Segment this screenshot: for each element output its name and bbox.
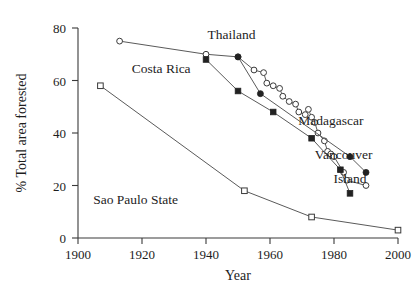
series-label-costa-rica: Costa Rica	[132, 61, 191, 76]
data-point	[395, 227, 401, 233]
data-point	[257, 91, 263, 97]
forest-cover-chart: 80 60 40 20 0 1900 1920 1940 1960 1980 2…	[0, 0, 412, 288]
data-point	[117, 38, 123, 44]
y-tick-label-60: 60	[53, 74, 66, 89]
series-annotations: ThailandCosta RicaMadagascarVancouverIsl…	[93, 27, 373, 207]
x-axis-ticks	[78, 238, 398, 244]
data-point	[251, 67, 257, 73]
data-point	[286, 99, 292, 105]
data-point	[306, 106, 312, 112]
data-point	[309, 214, 315, 220]
data-point	[280, 93, 286, 99]
data-point	[277, 85, 283, 91]
series-label-madagascar: Madagascar	[298, 113, 364, 128]
data-point	[203, 51, 209, 57]
data-point	[261, 70, 267, 76]
chart-plot-area: 80 60 40 20 0 1900 1920 1940 1960 1980 2…	[0, 0, 412, 288]
data-point	[347, 191, 353, 197]
series-label-thailand: Thailand	[208, 27, 256, 42]
x-tick-label-1940: 1940	[193, 247, 219, 262]
series-label-island: Island	[334, 171, 367, 186]
x-tick-label-1960: 1960	[257, 247, 283, 262]
x-tick-label-1900: 1900	[65, 247, 91, 262]
data-point	[98, 83, 104, 89]
series-label-vancouver: Vancouver	[315, 147, 373, 162]
data-point	[270, 109, 276, 115]
data-point	[235, 88, 241, 94]
data-point	[203, 57, 209, 63]
data-point	[242, 188, 248, 194]
y-tick-label-0: 0	[60, 231, 67, 246]
y-tick-label-40: 40	[53, 126, 66, 141]
data-point	[264, 80, 270, 86]
data-point	[293, 101, 299, 107]
y-tick-label-20: 20	[53, 179, 66, 194]
y-tick-label-80: 80	[53, 21, 66, 36]
data-point	[235, 54, 241, 60]
x-tick-label-1920: 1920	[129, 247, 155, 262]
series-label-sao-paulo-state: Sao Paulo State	[93, 192, 178, 207]
y-axis-title: % Total area forested	[14, 74, 29, 193]
x-axis-title: Year	[225, 268, 251, 283]
y-axis-ticks	[72, 28, 78, 238]
data-point	[309, 135, 315, 141]
x-tick-label-1980: 1980	[321, 247, 347, 262]
data-point	[270, 83, 276, 89]
x-tick-label-2000: 2000	[385, 247, 411, 262]
